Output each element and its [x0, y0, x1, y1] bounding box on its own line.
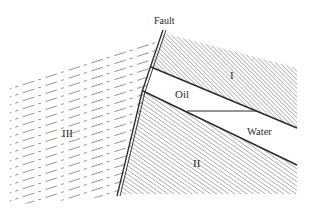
- layer-1-label: I: [230, 69, 234, 81]
- layer-2-label: II: [193, 157, 201, 169]
- water-label: Water: [247, 126, 272, 137]
- layer-3-label: III: [62, 127, 73, 139]
- oil-label: Oil: [175, 88, 189, 100]
- fault-label: Fault: [154, 15, 175, 26]
- fault-trap-diagram: Fault I Oil Water II III: [0, 0, 310, 213]
